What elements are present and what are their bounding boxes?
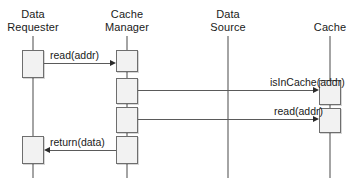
arrowhead-icon bbox=[110, 60, 116, 66]
activation-bar-data-requester bbox=[22, 136, 44, 164]
participant-label-line: Data bbox=[7, 8, 59, 21]
message-label-read-addr-1: read(addr) bbox=[50, 49, 99, 61]
lifeline-data-source bbox=[228, 36, 229, 178]
activation-bar-data-requester bbox=[22, 50, 44, 78]
participant-label-line: Requester bbox=[7, 21, 59, 34]
participant-label-cache-manager: Cache Manager bbox=[105, 8, 149, 33]
participant-label-cache: Cache bbox=[314, 21, 346, 34]
participant-label-data-requester: Data Requester bbox=[7, 8, 59, 33]
message-arrow-read-addr-2 bbox=[138, 119, 313, 120]
activation-bar-cache-manager bbox=[116, 136, 138, 164]
lifeline-cache bbox=[330, 36, 331, 178]
message-arrow-is-in-cache bbox=[138, 90, 313, 91]
message-label-read-addr-2: read(addr) bbox=[274, 105, 323, 117]
message-label-is-in-cache: isInCache(addr) bbox=[270, 76, 345, 88]
participant-label-line: Manager bbox=[105, 21, 149, 34]
participant-label-line: Cache bbox=[105, 8, 149, 21]
message-arrow-read-addr-1 bbox=[44, 63, 110, 64]
participant-label-line: Data bbox=[210, 8, 245, 21]
sequence-diagram-canvas: Data Requester Cache Manager Data Source… bbox=[0, 0, 352, 194]
participant-label-line: Cache bbox=[314, 21, 346, 34]
activation-bar-cache-manager bbox=[116, 50, 138, 72]
participant-label-line: Source bbox=[210, 21, 245, 34]
activation-bar-cache-manager bbox=[116, 78, 138, 104]
participant-label-data-source: Data Source bbox=[210, 8, 245, 33]
message-label-return-data: return(data) bbox=[50, 136, 105, 148]
message-arrow-return-data bbox=[50, 150, 116, 151]
activation-bar-cache-manager bbox=[116, 107, 138, 133]
